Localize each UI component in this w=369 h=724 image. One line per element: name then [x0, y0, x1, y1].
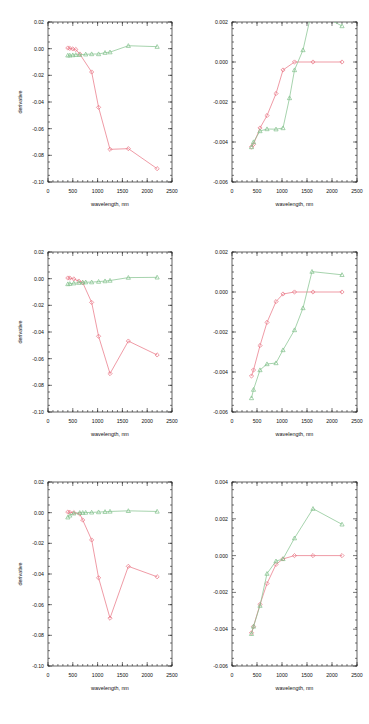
y-tick-label: 0.02 — [34, 479, 44, 485]
y-tick-label: -0.06 — [32, 356, 44, 362]
y-tick-label: -0.002 — [213, 99, 228, 105]
x-tick-label: 1500 — [117, 672, 129, 678]
x-tick-label: 1000 — [276, 418, 288, 424]
x-tick-label: 1500 — [117, 188, 129, 194]
y-tick-label: -0.06 — [32, 602, 44, 608]
plot-frame — [232, 482, 357, 666]
data-point-green — [325, 16, 329, 20]
x-tick-label: 500 — [68, 418, 77, 424]
x-tick-label: 0 — [231, 188, 234, 194]
plot-frame — [232, 22, 357, 182]
y-tick-label: -0.004 — [213, 139, 228, 145]
y-tick-label: -0.08 — [32, 382, 44, 388]
figure-svg: 050010001500200025000.020.00-0.02-0.04-0… — [0, 0, 369, 724]
x-tick-label: 0 — [231, 672, 234, 678]
y-tick-label: 0.000 — [215, 289, 228, 295]
x-tick-label: 500 — [68, 188, 77, 194]
data-point-red — [155, 575, 159, 579]
y-tick-label: -0.006 — [213, 179, 228, 185]
y-tick-label: -0.04 — [32, 99, 44, 105]
x-tick-label: 0 — [47, 418, 50, 424]
y-axis-title: derivative — [17, 562, 23, 585]
x-tick-label: 1000 — [276, 672, 288, 678]
x-tick-label: 500 — [253, 418, 262, 424]
chart-panel-r1c1: 050010001500200025000.020.00-0.02-0.04-0… — [17, 19, 178, 207]
chart-panel-r2c1: 050010001500200025000.020.00-0.02-0.04-0… — [17, 249, 178, 437]
chart-panel-r3c2: 050010001500200025000.0040.0020.000-0.00… — [213, 479, 363, 691]
x-tick-label: 1000 — [92, 418, 104, 424]
y-tick-label: 0.004 — [215, 479, 228, 485]
series-line-green — [252, 10, 343, 147]
data-point-green — [310, 8, 314, 12]
y-tick-label: 0.000 — [215, 553, 228, 559]
y-tick-label: -0.006 — [213, 663, 228, 669]
data-layer — [249, 507, 344, 636]
x-axis-title: wavelength, nm — [90, 431, 129, 437]
data-layer — [66, 275, 159, 375]
x-tick-label: 0 — [47, 188, 50, 194]
data-point-red — [155, 353, 159, 357]
y-tick-label: -0.002 — [213, 589, 228, 595]
x-tick-label: 1000 — [276, 188, 288, 194]
x-tick-label: 2000 — [326, 188, 338, 194]
x-tick-label: 2000 — [141, 672, 153, 678]
y-tick-label: -0.08 — [32, 632, 44, 638]
y-tick-label: 0.002 — [215, 249, 228, 255]
y-tick-label: 0.002 — [215, 19, 228, 25]
x-tick-label: 1000 — [92, 188, 104, 194]
x-tick-label: 0 — [47, 672, 50, 678]
y-tick-label: -0.06 — [32, 126, 44, 132]
y-tick-label: 0.02 — [34, 249, 44, 255]
plot-panel: 050010001500200025000.020.00-0.02-0.04-0… — [0, 0, 369, 724]
series-line-red — [68, 48, 157, 169]
x-axis-title: wavelength, nm — [275, 685, 314, 691]
x-tick-label: 2000 — [326, 672, 338, 678]
x-tick-label: 2500 — [351, 672, 363, 678]
y-tick-label: 0.00 — [34, 276, 44, 282]
series-line-green — [252, 509, 343, 634]
series-line-red — [68, 278, 157, 374]
y-tick-label: -0.04 — [32, 329, 44, 335]
x-axis-title: wavelength, nm — [275, 201, 314, 207]
x-axis-title: wavelength, nm — [90, 201, 129, 207]
series-line-red — [252, 62, 343, 147]
series-line-green — [252, 272, 343, 398]
x-axis-title: wavelength, nm — [90, 685, 129, 691]
x-tick-label: 2500 — [166, 188, 178, 194]
y-tick-label: 0.02 — [34, 19, 44, 25]
data-layer — [249, 8, 344, 149]
data-layer — [66, 44, 159, 171]
x-tick-label: 2000 — [141, 418, 153, 424]
chart-panel-r2c2: 050010001500200025000.0020.000-0.002-0.0… — [213, 249, 363, 437]
x-tick-label: 2500 — [351, 418, 363, 424]
x-tick-label: 1000 — [92, 672, 104, 678]
data-layer — [249, 270, 344, 400]
data-layer — [66, 509, 159, 621]
x-tick-label: 2500 — [166, 418, 178, 424]
y-tick-label: -0.04 — [32, 571, 44, 577]
y-tick-label: -0.08 — [32, 152, 44, 158]
x-tick-label: 1500 — [301, 672, 313, 678]
y-tick-label: 0.00 — [34, 46, 44, 52]
series-line-red — [252, 556, 343, 633]
figure-canvas: 050010001500200025000.020.00-0.02-0.04-0… — [0, 0, 369, 724]
x-tick-label: 1500 — [117, 418, 129, 424]
y-tick-label: 0.000 — [215, 59, 228, 65]
x-tick-label: 2000 — [326, 418, 338, 424]
x-tick-label: 500 — [253, 672, 262, 678]
chart-panel-r3c1: 050010001500200025000.020.00-0.02-0.04-0… — [17, 479, 178, 691]
x-tick-label: 500 — [253, 188, 262, 194]
y-tick-label: -0.004 — [213, 369, 228, 375]
y-axis-title: derivative — [17, 90, 23, 113]
x-tick-label: 2500 — [351, 188, 363, 194]
y-tick-label: -0.004 — [213, 626, 228, 632]
plot-frame — [48, 22, 172, 182]
plot-frame — [48, 252, 172, 412]
y-tick-label: -0.006 — [213, 409, 228, 415]
x-tick-label: 1500 — [301, 418, 313, 424]
y-tick-label: -0.10 — [32, 409, 44, 415]
y-tick-label: -0.10 — [32, 179, 44, 185]
series-line-red — [252, 292, 343, 376]
series-line-red — [68, 512, 157, 618]
y-tick-label: -0.002 — [213, 329, 228, 335]
